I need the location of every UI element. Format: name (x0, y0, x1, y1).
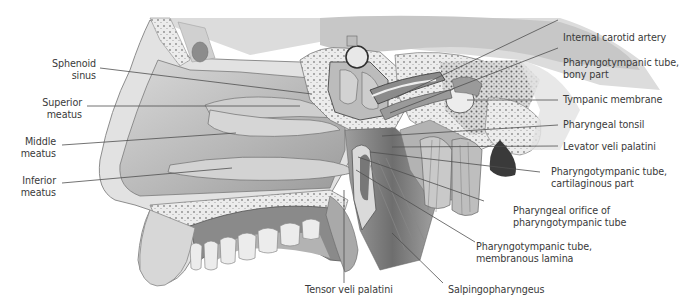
levator-veli-palatini-muscle (420, 137, 452, 209)
label-line: cartilaginous part (551, 178, 667, 190)
label-tensor-veli-palatini: Tensor veli palatini (305, 284, 393, 296)
anatomy-figure: Sphenoid sinus Superior meatus Middle me… (0, 0, 687, 300)
tensor-veli-palatini-muscle (452, 138, 482, 215)
label-line: membranous lamina (476, 253, 592, 265)
label-tympanic-membrane: Tympanic membrane (563, 94, 662, 106)
hypophyseal-fossa (346, 46, 368, 68)
label-line: meatus (4, 148, 56, 160)
label-line: Pharyngotympanic tube, (551, 166, 667, 178)
label-line: Levator veli palatini (563, 141, 656, 153)
label-line: Pharyngotympanic tube, (563, 57, 679, 69)
label-line: Middle (4, 136, 56, 148)
label-line: Salpingopharyngeus (448, 284, 544, 296)
label-pharyngotympanic-tube-bony: Pharyngotympanic tube, bony part (563, 57, 679, 81)
label-line: Internal carotid artery (563, 32, 666, 44)
label-line: Pharyngotympanic tube, (476, 241, 592, 253)
label-pharyngotympanic-tube-cartilaginous: Pharyngotympanic tube, cartilaginous par… (551, 166, 667, 190)
label-levator-veli-palatini: Levator veli palatini (563, 141, 656, 153)
label-salpingopharyngeus: Salpingopharyngeus (448, 284, 544, 296)
label-superior-meatus: Superior meatus (30, 97, 82, 121)
label-line: meatus (30, 109, 82, 121)
label-line: bony part (563, 69, 679, 81)
label-internal-carotid-artery: Internal carotid artery (563, 32, 666, 44)
label-line: Sphenoid (44, 58, 96, 70)
label-pharyngeal-tonsil: Pharyngeal tonsil (563, 119, 644, 131)
label-line: meatus (4, 187, 56, 199)
label-line: Tensor veli palatini (305, 284, 393, 296)
label-line: Pharyngeal orifice of (513, 205, 626, 217)
label-middle-meatus: Middle meatus (4, 136, 56, 160)
label-pharyngeal-orifice: Pharyngeal orifice of pharyngotympanic t… (513, 205, 626, 229)
label-line: sinus (44, 70, 96, 82)
label-line: Tympanic membrane (563, 94, 662, 106)
label-sphenoid-sinus: Sphenoid sinus (44, 58, 96, 82)
label-line: Superior (30, 97, 82, 109)
label-pharyngotympanic-tube-membranous: Pharyngotympanic tube, membranous lamina (476, 241, 592, 265)
label-line: Pharyngeal tonsil (563, 119, 644, 131)
label-inferior-meatus: Inferior meatus (4, 175, 56, 199)
label-line: Inferior (4, 175, 56, 187)
label-line: pharyngotympanic tube (513, 217, 626, 229)
